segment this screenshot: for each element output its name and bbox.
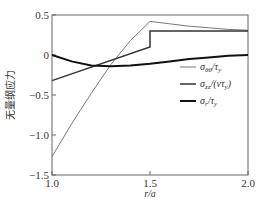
y-tick-label: 0: [44, 49, 50, 61]
x-axis-label: r/a: [144, 188, 156, 199]
legend-label: σr/τy: [200, 95, 218, 108]
x-tick-label: 1.0: [45, 177, 59, 189]
y-tick-label: −0.5: [29, 89, 49, 101]
y-axis-label: 无量纲应力: [4, 70, 16, 120]
data-series: [52, 21, 248, 156]
legend-label: σzz/(ντy): [200, 78, 232, 91]
x-axis-ticks: 1.01.52.0: [45, 171, 255, 189]
y-tick-label: 0.5: [35, 9, 49, 21]
legend-label: σθθ/τy: [200, 61, 222, 74]
y-tick-label: −1.0: [29, 129, 49, 141]
series-line-2: [52, 55, 248, 66]
stress-chart: 0.50−0.5−1.0−1.5 1.01.52.0 无量纲应力 r/a σθθ…: [0, 0, 265, 210]
x-tick-label: 2.0: [241, 177, 255, 189]
legend: σθθ/τyσzz/(ντy)σr/τy: [180, 61, 232, 108]
